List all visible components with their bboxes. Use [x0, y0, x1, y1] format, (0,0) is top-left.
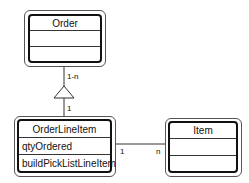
class-name: OrderLineItem — [19, 121, 110, 137]
aggregation-triangle-icon — [54, 86, 74, 98]
attributes-compartment — [170, 138, 236, 154]
operations-compartment — [170, 155, 236, 171]
operations-compartment — [30, 46, 100, 61]
multiplicity-label: 1 — [120, 147, 124, 156]
attribute-item: qtyOrdered — [19, 137, 110, 154]
class-orderlineitem[interactable]: OrderLineItem qtyOrdered buildPickListLi… — [17, 119, 112, 173]
multiplicity-label: 1-n — [67, 72, 79, 81]
class-name: Order — [30, 16, 100, 30]
multiplicity-label: n — [156, 147, 160, 156]
class-order[interactable]: Order — [28, 14, 102, 63]
attributes-compartment — [30, 30, 100, 45]
operation-item: buildPickListLineItem — [19, 154, 110, 171]
class-item[interactable]: Item — [168, 121, 238, 173]
class-name: Item — [170, 123, 236, 138]
multiplicity-label: 1 — [67, 104, 71, 113]
